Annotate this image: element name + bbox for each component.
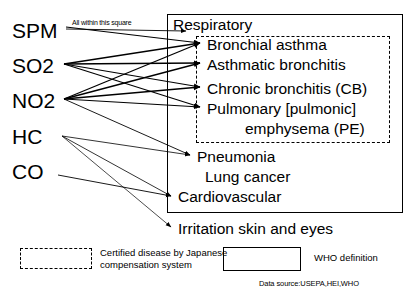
pollutant-so2: SO2 <box>12 55 54 76</box>
data-source-note: Data source:USEPA,HEI,WHO <box>259 279 359 288</box>
disease-asthmatic-bronchitis: Asthmatic bronchitis <box>207 57 346 73</box>
disease-cardiovascular: Cardiovascular <box>178 189 281 205</box>
disease-respiratory: Respiratory <box>173 17 252 33</box>
disease-chronic-bronchitis: Chronic bronchitis (CB) <box>207 81 367 97</box>
disease-pulmonary-emphysema: Pulmonary [pulmonic] <box>207 101 356 117</box>
legend: Certified disease by Japanese compensati… <box>0 243 413 294</box>
pollutant-hc: HC <box>12 126 42 147</box>
disease-pneumonia: Pneumonia <box>197 149 275 165</box>
pollutant-spm: SPM <box>12 20 58 41</box>
legend-label-certified: Certified disease by Japanese compensati… <box>100 247 227 270</box>
diagram-canvas: All within this square SPM SO2 NO2 HC CO… <box>0 0 413 294</box>
legend-swatch-who <box>223 247 301 271</box>
legend-label-who: WHO definition <box>314 252 378 264</box>
disease-bronchial-asthma: Bronchial asthma <box>207 37 327 53</box>
legend-swatch-certified <box>20 248 92 269</box>
disease-lung-cancer: Lung cancer <box>205 169 290 185</box>
pollutant-no2: NO2 <box>12 90 55 111</box>
pollutant-co: CO <box>12 161 44 182</box>
disease-irritation-skin-eyes: Irritation skin and eyes <box>178 221 333 237</box>
disease-pulmonary-emphysema-2: emphysema (PE) <box>245 121 365 137</box>
all-within-square-note: All within this square <box>72 19 131 27</box>
